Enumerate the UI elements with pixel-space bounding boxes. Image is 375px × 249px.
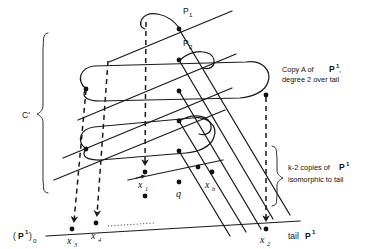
label-tail-superscript: 1 [312, 229, 316, 235]
label-origin-close: ) [29, 231, 32, 241]
loop-upper [80, 62, 268, 101]
brace-left-path [37, 33, 48, 193]
point-dot-f5 [177, 149, 182, 154]
label-P2-sub: 2 [189, 43, 193, 50]
point-dot-P2 [177, 58, 182, 63]
loop-lower [80, 118, 214, 160]
point-dot-mid-upper [196, 165, 201, 170]
dashed-arrow-to-x4 [97, 61, 108, 215]
point-dot-xb [210, 170, 215, 175]
point-dot-x4 [94, 221, 99, 226]
point-dot-loop-lower-left [84, 147, 89, 152]
rail-line-2 [179, 60, 273, 219]
brace-right [272, 146, 283, 206]
point-dot-x2 [264, 227, 269, 232]
label-x3-sub: 3 [73, 241, 77, 248]
point-dot-x1 [143, 170, 148, 175]
point-dot-f4 [177, 119, 182, 124]
point-dot-f3 [177, 89, 182, 94]
label-x2-base: x [259, 234, 265, 245]
point-dot-q [177, 180, 182, 185]
annotation-copy-a-symbol: P [329, 64, 335, 74]
brace-right-path [272, 146, 283, 206]
label-x3-base: x [66, 235, 72, 246]
annotation-k2-line2: isomorphic to tail [288, 175, 344, 184]
dashed-arrow-to-x1 [145, 22, 146, 164]
figure-root: P 1 P 2 x 1 x b q x 3 x 4 x 2 ( P [0, 0, 375, 249]
point-dot-P1 [177, 27, 182, 32]
text-labels: P 1 P 2 x 1 x b q x 3 x 4 x 2 ( P [13, 6, 350, 248]
dashed-arrows [74, 22, 266, 221]
label-origin-symbol: P [18, 231, 24, 241]
brace-left [37, 33, 48, 193]
label-x4-base: x [90, 230, 96, 241]
rail-lines [179, 29, 290, 236]
annotation-copy-a-line2: degree 2 over tail [282, 75, 339, 84]
point-dot-mid-lower [143, 194, 148, 199]
annotation-copy-a-line1-prefix: Copy A of [282, 65, 315, 74]
label-xb-base: x [204, 179, 210, 190]
point-dot-loop-upper-right [264, 93, 269, 98]
label-origin-subscript: 0 [33, 237, 37, 244]
label-curve-C-prime: C' [22, 110, 30, 120]
point-dot-loop-upper-left [84, 87, 89, 92]
label-x1-base: x [137, 179, 143, 190]
baseline-dotted-segment [108, 223, 154, 226]
label-q: q [176, 188, 181, 199]
loop-upper-outline [80, 62, 268, 101]
annotation-copy-a-line1-suffix: , [339, 65, 341, 74]
mathematical-curve-diagram: P 1 P 2 x 1 x b q x 3 x 4 x 2 ( P [0, 0, 375, 249]
label-x1-sub: 1 [145, 185, 148, 192]
fibre-line-4 [54, 110, 225, 180]
label-xb-sub: b [212, 185, 215, 192]
label-x4-sub: 4 [98, 236, 102, 243]
label-tail-text: tail [288, 231, 299, 241]
label-P1-sub: 1 [189, 11, 193, 18]
point-dot-x3 [70, 227, 75, 232]
loop-lower-outline [80, 118, 214, 160]
annotation-k2-superscript: 1 [346, 161, 350, 167]
label-x2-sub: 2 [267, 240, 271, 247]
rail-line-4 [179, 121, 246, 232]
label-origin-open: ( [13, 231, 16, 241]
annotation-k2-line1-prefix: k-2 copies of [288, 163, 331, 172]
hook-curls [141, 14, 215, 135]
label-tail-symbol: P [305, 231, 311, 241]
annotation-k2-symbol: P [339, 162, 345, 172]
